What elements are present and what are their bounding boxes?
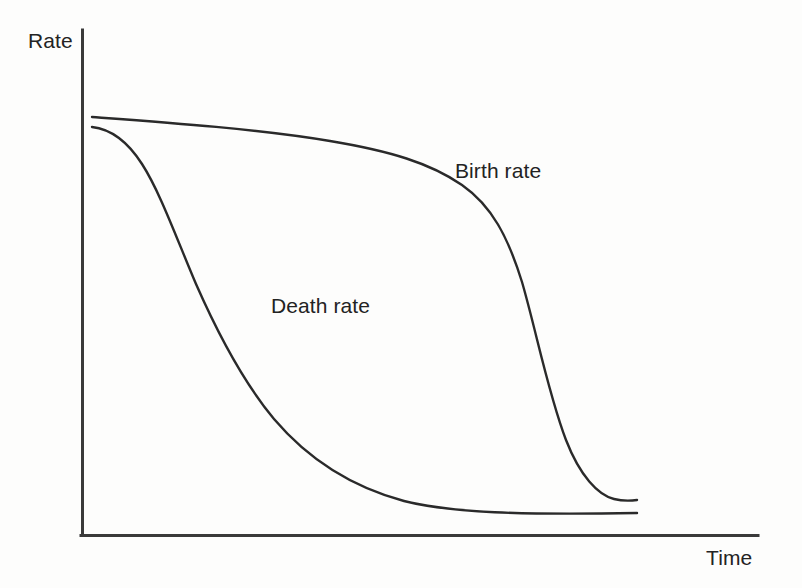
y-axis-label: Rate (28, 30, 73, 51)
chart-plot-area (0, 0, 802, 588)
demographic-transition-chart: Rate Time Birth rate Death rate (0, 0, 802, 588)
birth-rate-label: Birth rate (455, 160, 541, 181)
death-rate-curve (92, 127, 637, 514)
death-rate-label: Death rate (271, 295, 370, 316)
x-axis-label: Time (706, 547, 752, 568)
